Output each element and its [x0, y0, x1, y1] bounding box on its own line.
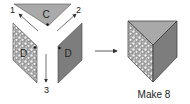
vertex-dot [46, 23, 48, 25]
left-face-label: D [20, 48, 27, 59]
fold-label-1: 1 [10, 5, 15, 15]
vertex-dot [58, 47, 60, 49]
right-face-label: D [65, 48, 72, 59]
fold-label-3: 3 [44, 85, 49, 95]
triangle-label: C [43, 9, 50, 20]
fold-label-2: 2 [76, 5, 81, 15]
folded-prism [128, 21, 177, 82]
fold-arrow-2 [57, 14, 76, 31]
make-count-caption: Make 8 [130, 89, 178, 101]
vertex-dot [34, 46, 36, 48]
unfolded-net: C D D 1 2 3 [10, 4, 82, 95]
